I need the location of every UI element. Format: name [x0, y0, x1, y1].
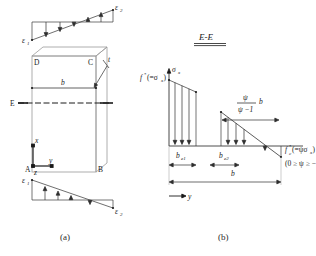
strain-diagram-bottom: ε 1 ε 2 [22, 176, 123, 217]
dimension-be2-label: b [219, 151, 223, 160]
stress-label-left-paren-end: ) [164, 73, 167, 82]
panel-b-axis-y-label: y [187, 192, 192, 201]
plate-corner-label-d: D [34, 58, 40, 67]
figure-root: ε 1 ε 2 D C A B b [0, 0, 316, 256]
panel-b-title: E-E [198, 32, 213, 42]
stress-block-right-arrows [226, 117, 246, 144]
plate-corner-label-c: C [88, 58, 93, 67]
stress-label-left-f: f [140, 73, 143, 82]
dimension-b-total-label: b [231, 169, 235, 178]
strain-top-label-e2: ε [115, 3, 118, 12]
stress-block-left-apex [168, 79, 170, 81]
stress-label-right-paren: (=ψσ [292, 145, 307, 154]
dimension-be2-sub: e2 [224, 156, 229, 161]
caption-a: (a) [60, 232, 70, 242]
stress-label-right: f c * (=ψσ x ) [285, 144, 316, 156]
plate-thickness-label-t: t [108, 55, 111, 64]
stress-block-left-knee [195, 91, 197, 93]
stress-block-left-arrows [173, 83, 191, 145]
stress-label-left-paren: (=σ [147, 73, 158, 82]
strain-bottom-label-e1-sub: 1 [27, 181, 30, 186]
strain-bottom-label-e2-sub: 2 [120, 212, 123, 217]
plate-box: D C A B b t E [10, 47, 113, 177]
stress-axis-label-sigma-sub: x [177, 70, 181, 75]
dimension-b-total-arrow [169, 180, 281, 184]
strain-top-label-e2-sub: 2 [120, 8, 123, 13]
stress-block-left-slope [169, 80, 196, 92]
plate-width-label-b: b [61, 78, 65, 87]
stress-label-left: f * (=σ x ) [140, 72, 167, 83]
dimension-be2-arrow [210, 163, 239, 167]
section-label-e: E [10, 99, 15, 108]
psi-fraction-numerator: ψ [243, 93, 248, 102]
dimension-be1-arrow [169, 163, 196, 167]
plate-width-tick-left [31, 87, 33, 89]
stress-label-right-paren-end: ) [313, 145, 316, 154]
strain-diagram-top: ε 1 ε 2 [22, 3, 123, 46]
psi-range-note: (0 ≥ ψ ≥ −1) [285, 159, 316, 168]
strain-top-label-e1-sub: 1 [27, 41, 30, 46]
panel-b: E-E σ x [140, 32, 316, 201]
strain-top-label-e1: ε [22, 36, 25, 45]
strain-bottom-gradient-line [32, 180, 113, 208]
stress-block-right-slope [221, 112, 281, 157]
stress-block-right [220, 111, 282, 158]
dimension-be2: b e2 [210, 151, 239, 167]
axis-label-y: y [48, 156, 53, 165]
plate-right-face [96, 47, 107, 172]
panel-b-axis-y-arrow [169, 194, 186, 198]
axis-label-x: x [34, 136, 39, 145]
strain-bottom-point-e2 [112, 207, 114, 209]
psi-fraction-suffix-b: b [259, 97, 263, 106]
dimension-b-total: b [169, 146, 281, 185]
strain-bottom-point-e1 [31, 179, 33, 181]
axis-label-z: z [33, 168, 37, 177]
caption-b: (b) [218, 232, 229, 242]
stress-block-left [168, 79, 197, 146]
psi-fraction-group: ψ ψ −1 b [222, 93, 279, 122]
strain-bottom-label-e2: ε [115, 207, 118, 216]
plate-corner-label-b: B [98, 165, 103, 174]
dimension-be1-sub: e1 [181, 156, 186, 161]
dimension-be1: b e1 [169, 151, 196, 167]
dimension-be1-label: b [176, 151, 180, 160]
plate-top-face [32, 47, 107, 56]
stress-block-right-apex [220, 111, 222, 113]
psi-fraction-denominator: ψ −1 [238, 105, 253, 114]
strain-bottom-arrow-group [43, 187, 92, 205]
strain-bottom-label-e1: ε [22, 176, 25, 185]
strain-top-arrow-group [44, 12, 103, 36]
strain-top-point-e1 [31, 39, 33, 41]
plate-corner-label-a: A [25, 165, 31, 174]
strain-top-point-e2 [112, 9, 114, 11]
stress-axis-label-sigma: σ [172, 65, 176, 74]
plate-front-face [32, 56, 96, 172]
panel-b-axis-y: y [169, 192, 192, 201]
panel-a: ε 1 ε 2 D C A B b [10, 3, 123, 217]
